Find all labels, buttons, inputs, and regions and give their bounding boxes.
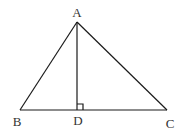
- label-A: A: [72, 5, 82, 20]
- triangle-diagram: A B D C: [0, 0, 187, 134]
- label-C: C: [166, 116, 175, 131]
- segment-AB: [20, 22, 77, 110]
- label-B: B: [13, 114, 22, 129]
- right-angle-marker-icon: [77, 104, 83, 110]
- segment-AC: [77, 22, 167, 110]
- label-D: D: [73, 113, 82, 128]
